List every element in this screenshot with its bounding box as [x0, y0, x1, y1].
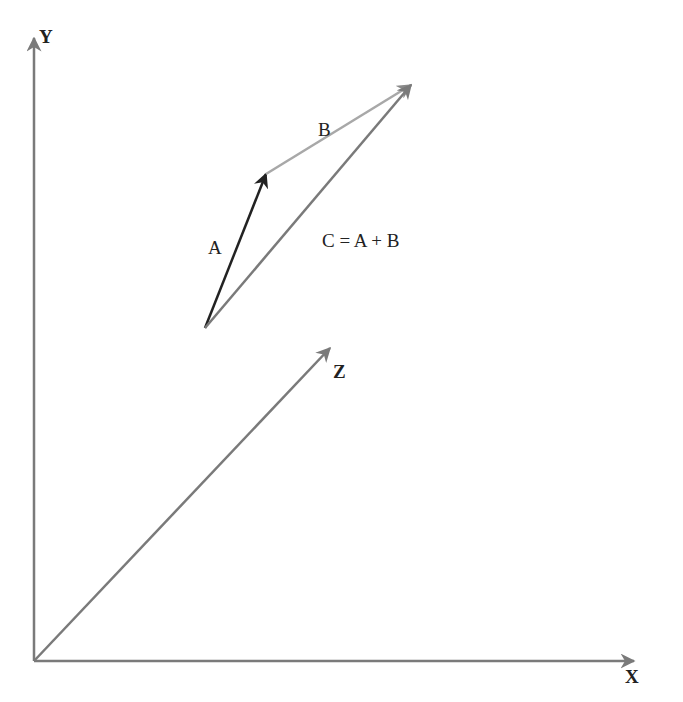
- y-axis-label: Y: [39, 26, 53, 47]
- vector-a-label: A: [208, 237, 222, 258]
- vector-b-label: B: [318, 119, 331, 140]
- vector-diagram: Y X Z A B C = A + B: [0, 0, 683, 702]
- vector-b: [266, 85, 411, 174]
- z-axis: [34, 348, 330, 661]
- vector-c-label: C = A + B: [322, 230, 399, 251]
- x-axis-label: X: [625, 666, 639, 687]
- vector-c: [205, 85, 411, 328]
- z-axis-label: Z: [333, 361, 346, 382]
